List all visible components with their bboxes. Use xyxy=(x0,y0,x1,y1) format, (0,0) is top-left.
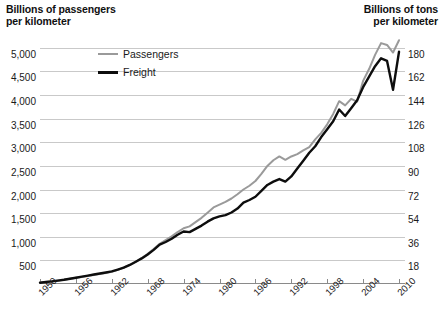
x-axis-tick-labels: 1950195619621968197419801986199219982004… xyxy=(40,286,405,323)
right-axis-tick-label: 36 xyxy=(408,239,419,249)
chart-container: Billions of passengers per kilometer Bil… xyxy=(0,0,442,323)
left-axis-tick-label: 2,000 xyxy=(11,192,36,202)
series-line-freight xyxy=(40,52,399,283)
right-axis-tick-labels: 1836547290108126144162180 xyxy=(408,0,442,323)
right-axis-tick-label: 18 xyxy=(408,262,419,272)
left-axis-tick-label: 4,500 xyxy=(11,73,36,83)
legend-item-passengers: Passengers xyxy=(98,47,178,61)
left-axis-tick-label: 500 xyxy=(19,262,36,272)
right-axis-tick-label: 180 xyxy=(408,50,425,60)
right-axis-tick-label: 162 xyxy=(408,73,425,83)
chart-legend: Passengers Freight xyxy=(98,47,218,81)
legend-swatch-passengers-icon xyxy=(98,53,118,55)
left-axis-tick-label: 5,000 xyxy=(11,50,36,60)
right-axis-tick-label: 144 xyxy=(408,97,425,107)
left-axis-tick-label: 1,000 xyxy=(11,239,36,249)
left-axis-tick-label: 3,000 xyxy=(11,144,36,154)
legend-item-freight: Freight xyxy=(98,65,156,79)
series-line-passengers xyxy=(40,40,399,282)
left-axis-tick-label: 1,500 xyxy=(11,215,36,225)
left-axis-tick-label: 3,500 xyxy=(11,121,36,131)
left-axis-tick-labels: 5001,0001,5002,0002,5003,0003,5004,0004,… xyxy=(0,0,36,323)
legend-label-passengers: Passengers xyxy=(123,49,178,60)
right-axis-tick-label: 54 xyxy=(408,215,419,225)
legend-label-freight: Freight xyxy=(123,67,156,78)
plot-area xyxy=(40,36,405,284)
right-axis-tick-label: 126 xyxy=(408,121,425,131)
right-axis-tick-label: 72 xyxy=(408,192,419,202)
legend-swatch-freight-icon xyxy=(98,71,118,74)
series-lines xyxy=(40,36,405,284)
left-axis-tick-label: 2,500 xyxy=(11,168,36,178)
right-axis-tick-label: 90 xyxy=(408,168,419,178)
right-axis-tick-label: 108 xyxy=(408,144,425,154)
left-axis-tick-label: 4,000 xyxy=(11,97,36,107)
